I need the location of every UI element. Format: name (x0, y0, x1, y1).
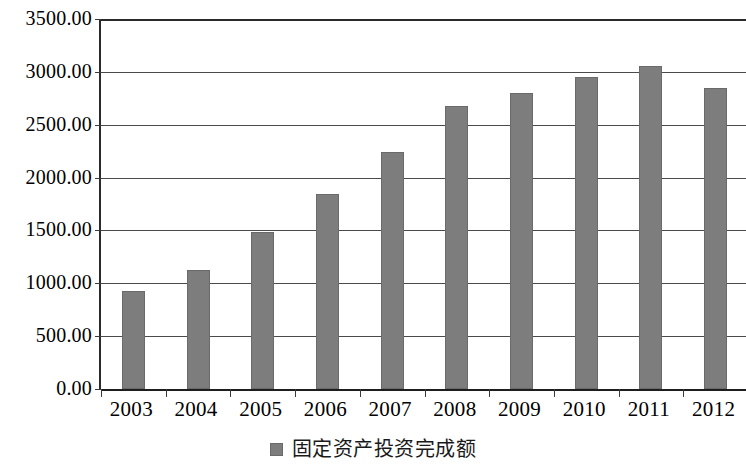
x-axis-tick-label-2011: 2011 (628, 396, 670, 422)
gridline-0.00 (101, 389, 746, 391)
x-axis-tick-label-2009: 2009 (498, 396, 541, 422)
x-axis-labels: 2003200420052006200720082009201020112012 (99, 396, 746, 430)
y-axis-tick-label: 500.00 (0, 325, 92, 345)
x-axis-tick-label-2012: 2012 (692, 396, 735, 422)
y-axis-labels: 0.00500.001000.001500.002000.002500.0030… (0, 0, 92, 468)
y-tick-mark (95, 19, 101, 20)
bar-2008 (445, 106, 468, 389)
x-axis-tick-label-2006: 2006 (304, 396, 347, 422)
x-axis-tick-label-2008: 2008 (433, 396, 476, 422)
legend-series-label: 固定资产投资完成额 (292, 437, 477, 461)
legend-color-swatch (270, 443, 283, 456)
y-axis-tick-label: 1500.00 (0, 219, 92, 239)
y-axis-tick-label: 0.00 (0, 378, 92, 398)
chart-legend: 固定资产投资完成额 (0, 437, 746, 461)
y-tick-mark (95, 125, 101, 126)
y-tick-mark (95, 178, 101, 179)
bar-2004 (187, 270, 210, 389)
bar-2009 (510, 93, 533, 389)
bar-chart: 0.00500.001000.001500.002000.002500.0030… (0, 0, 746, 468)
y-axis-tick-label: 2000.00 (0, 167, 92, 187)
y-axis-tick-label: 3500.00 (0, 8, 92, 28)
x-axis-tick-label-2007: 2007 (369, 396, 412, 422)
y-axis-tick-label: 3000.00 (0, 61, 92, 81)
y-tick-mark (95, 230, 101, 231)
x-axis-tick-label-2004: 2004 (174, 396, 217, 422)
y-axis-tick-label: 1000.00 (0, 272, 92, 292)
y-axis-tick-label: 2500.00 (0, 114, 92, 134)
x-axis-tick-label-2003: 2003 (110, 396, 153, 422)
y-tick-mark (95, 283, 101, 284)
bar-2006 (316, 194, 339, 389)
bar-2011 (639, 66, 662, 389)
x-axis-tick-label-2005: 2005 (239, 396, 282, 422)
bar-2005 (251, 232, 274, 389)
x-axis-tick-label-2010: 2010 (563, 396, 606, 422)
bar-2007 (381, 152, 404, 389)
y-tick-mark (95, 336, 101, 337)
gridline-3500.00 (101, 19, 746, 21)
bar-2003 (122, 291, 145, 389)
bar-2012 (704, 88, 727, 389)
bar-2010 (575, 77, 598, 389)
y-tick-mark (95, 72, 101, 73)
plot-area (99, 19, 746, 389)
